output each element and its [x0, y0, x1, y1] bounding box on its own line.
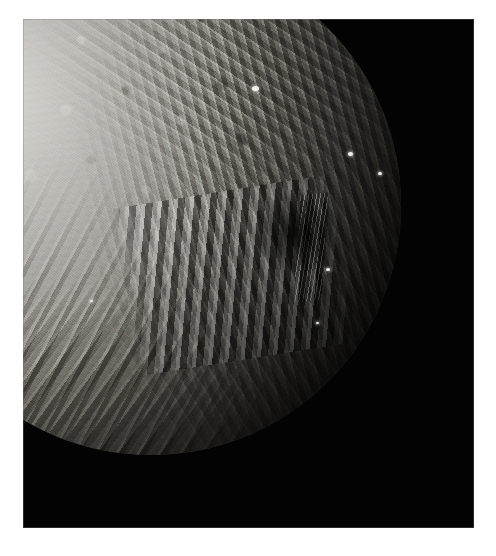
bright-spot-east-rim — [348, 152, 353, 156]
bright-spot-lower — [316, 322, 319, 324]
bright-spot-east-crater — [378, 172, 382, 175]
photographic-plate — [23, 19, 474, 528]
image-canvas — [0, 0, 496, 556]
data-dropout-notch-step — [315, 470, 341, 480]
bright-spot-limb — [90, 300, 93, 302]
bright-spot-scarp — [326, 268, 330, 271]
bright-spot-north — [252, 86, 259, 91]
inverness-corona-chevron — [109, 173, 363, 377]
miranda-disc — [23, 19, 401, 455]
